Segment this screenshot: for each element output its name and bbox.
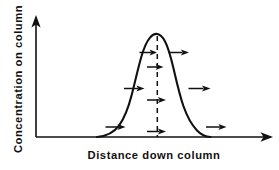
distance-axis — [36, 132, 273, 142]
arrow-center-lower — [147, 129, 166, 135]
concentration-axis — [31, 15, 40, 137]
arrow-center-upper — [147, 64, 164, 70]
arrow-right-mid — [189, 85, 211, 91]
plot-canvas: Concentration on column Distance down co… — [0, 0, 279, 170]
arrow-right-lower — [206, 124, 227, 130]
flow-direction-arrows — [106, 50, 227, 135]
y-axis-label: Concentration on column — [12, 5, 24, 153]
concentration-peak-curve — [97, 34, 211, 137]
concentration-vs-distance-figure: Concentration on column Distance down co… — [0, 0, 279, 170]
x-axis-label: Distance down column — [88, 149, 221, 161]
arrow-right-upper — [169, 50, 190, 56]
arrow-center-mid — [147, 97, 166, 103]
